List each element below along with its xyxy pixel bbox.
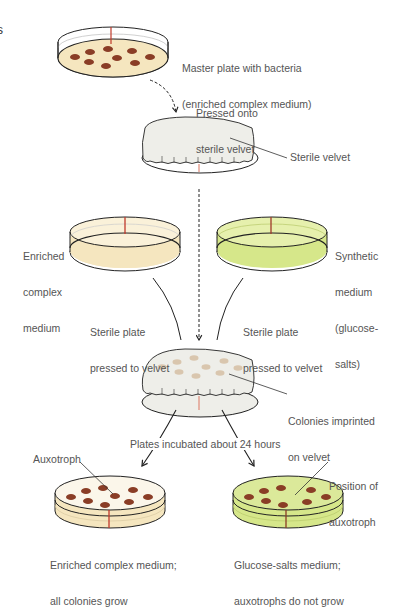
synthetic-result-caption: Glucose-salts medium; auxotrophs do not … (234, 535, 344, 611)
enriched-caption-line1: Enriched complex medium; (50, 559, 177, 571)
synthetic-label-line1: Synthetic (335, 250, 378, 262)
synthetic-medium-plate (217, 217, 327, 271)
synthetic-label-line3: (glucose- (335, 322, 378, 334)
position-callout-line1: Position of (329, 480, 378, 492)
synthetic-label-line4: salts) (335, 358, 378, 370)
right-press-label: Sterile plate pressed to velvet (243, 302, 322, 386)
right-press-label-line2: pressed to velvet (243, 362, 322, 374)
press-label-line2: sterile velvet (196, 143, 258, 155)
left-press-label: Sterile plate pressed to velvet (90, 302, 169, 386)
dashed-arrow-to-velvet (150, 80, 176, 112)
enriched-medium-label: Enriched complex medium (23, 226, 64, 346)
position-callout-line2: auxotroph (329, 516, 378, 528)
synthetic-label-line2: medium (335, 286, 378, 298)
enriched-label-line2: complex (23, 286, 64, 298)
auxotroph-colony (110, 493, 120, 499)
press-onto-velvet-label: Pressed onto sterile velvet (196, 83, 258, 167)
imprinted-label-line1: Colonies imprinted (288, 415, 375, 427)
enriched-label-line3: medium (23, 322, 64, 334)
right-press-label-line1: Sterile plate (243, 326, 322, 338)
enriched-medium-plate (70, 217, 180, 271)
result-enriched-plate (55, 462, 165, 528)
enriched-caption-line2: all colonies grow (50, 595, 177, 607)
right-press-curve (217, 278, 243, 340)
left-press-label-line2: pressed to velvet (90, 362, 169, 374)
master-plate (58, 27, 168, 77)
auxotroph-callout: Auxotroph (33, 453, 81, 465)
sterile-velvet-label: Sterile velvet (290, 151, 350, 163)
synthetic-medium-label: Synthetic medium (glucose- salts) (335, 226, 378, 382)
enriched-result-caption: Enriched complex medium; all colonies gr… (50, 535, 177, 611)
enriched-label-line1: Enriched (23, 250, 64, 262)
incubation-label: Plates incubated about 24 hours (128, 438, 283, 450)
figure-letter-fragment: s (0, 23, 3, 37)
position-of-auxotroph-callout: Position of auxotroph (329, 456, 378, 540)
master-plate-label-line1: Master plate with bacteria (182, 62, 312, 74)
synthetic-caption-line1: Glucose-salts medium; (234, 559, 344, 571)
press-label-line1: Pressed onto (196, 107, 258, 119)
left-press-label-line1: Sterile plate (90, 326, 169, 338)
synthetic-caption-line2: auxotrophs do not grow (234, 595, 344, 607)
